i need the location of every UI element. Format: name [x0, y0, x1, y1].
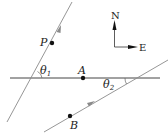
- north-label: N: [111, 10, 120, 21]
- label-theta1: θ1: [40, 64, 51, 78]
- north-arrow-icon: [113, 20, 117, 30]
- east-label: E: [139, 42, 146, 53]
- arrow-icon-line-b: [87, 101, 95, 107]
- label-b: B: [69, 119, 78, 132]
- label-theta2: θ2: [103, 78, 115, 92]
- label-p: P: [39, 36, 48, 49]
- theta2-arc: [125, 78, 127, 84]
- point-b: [68, 114, 72, 118]
- point-p: [50, 41, 54, 45]
- line-through-p: [7, 2, 72, 122]
- label-a: A: [77, 64, 86, 77]
- line-through-b: [44, 60, 168, 132]
- diagram-svg: P A B θ1 θ2 N E: [0, 0, 168, 135]
- east-arrow-icon: [128, 45, 138, 49]
- vector-diagram: P A B θ1 θ2 N E: [0, 0, 168, 135]
- compass: N E: [111, 10, 146, 53]
